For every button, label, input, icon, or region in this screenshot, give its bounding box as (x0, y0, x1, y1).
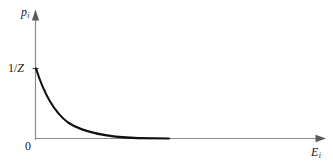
y-tick-symbol: Z (17, 61, 24, 75)
y-axis-label-subscript: i (27, 11, 29, 20)
y-axis-label: pi (21, 6, 30, 20)
y-axis-arrow-icon (32, 10, 39, 21)
y-tick-label-one-over-z: 1/Z (8, 62, 24, 74)
origin-label: 0 (25, 140, 31, 152)
x-axis-label-subscript: i (319, 151, 321, 160)
x-axis-arrow-icon (316, 135, 327, 142)
decay-curve (36, 69, 169, 139)
x-axis-label: Ei (311, 146, 321, 160)
plot-figure: pi Ei 1/Z 0 (0, 0, 333, 167)
plot-canvas (0, 0, 333, 167)
y-tick-prefix: 1/ (8, 61, 17, 75)
x-axis-label-symbol: E (311, 145, 318, 159)
